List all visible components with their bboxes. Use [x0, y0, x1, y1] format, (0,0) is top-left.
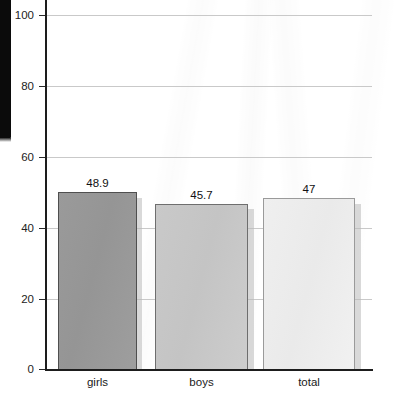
gridline-100 [46, 15, 372, 16]
x-axis-label-total: total [263, 377, 355, 389]
bar-value-label-girls: 48.9 [58, 178, 137, 190]
y-tick-label-100: 100 [2, 10, 34, 22]
x-axis-label-boys: boys [155, 377, 248, 389]
bar-value-label-total: 47 [263, 184, 355, 196]
y-tick-label-40: 40 [2, 223, 34, 235]
y-tick-label-80: 80 [2, 81, 34, 93]
bar-boys[interactable] [155, 204, 248, 370]
y-tick-label-60: 60 [2, 152, 34, 164]
gridline-80 [46, 86, 372, 87]
x-axis-line [45, 369, 373, 371]
bar-girls[interactable] [58, 192, 137, 370]
y-tick-label-20: 20 [2, 294, 34, 306]
bar-value-label-boys: 45.7 [155, 190, 248, 202]
x-axis-label-girls: girls [58, 377, 137, 389]
y-tick-label-0: 0 [2, 364, 34, 376]
gridline-60 [46, 157, 372, 158]
bar-total[interactable] [263, 198, 355, 370]
y-axis-line [45, 0, 47, 371]
